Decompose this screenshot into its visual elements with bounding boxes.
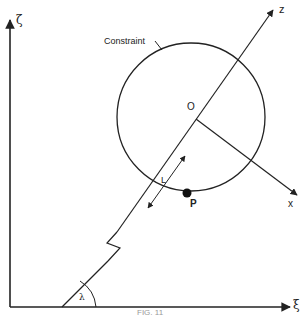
figure-caption: FIG. 11 xyxy=(137,309,163,317)
xi-label: ξ xyxy=(293,299,300,311)
point-p xyxy=(183,189,192,198)
constraint-leader xyxy=(155,41,162,50)
axis-break xyxy=(107,232,120,261)
angle-label: λ xyxy=(79,293,85,302)
length-label: L xyxy=(161,176,166,185)
zeta-label: ζ xyxy=(16,14,23,26)
point-label: P xyxy=(190,199,197,209)
constraint-label: Constraint xyxy=(104,37,145,46)
length-dimension xyxy=(148,156,185,208)
origin-label: O xyxy=(187,102,195,112)
constraint-circle xyxy=(117,43,265,191)
diagram-canvas xyxy=(0,0,305,319)
x-axis xyxy=(196,119,297,195)
x-axis-label: x xyxy=(288,199,293,209)
z-axis-label: z xyxy=(279,4,285,15)
